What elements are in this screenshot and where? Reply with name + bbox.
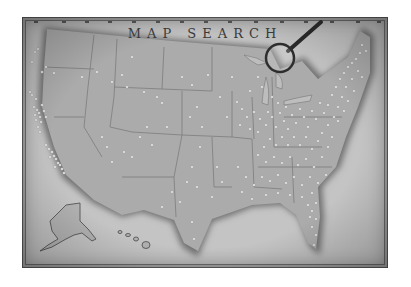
map-title: MAP SEARCH: [122, 26, 288, 41]
vignette: [22, 17, 388, 268]
map-frame: MAP SEARCH: [22, 17, 388, 268]
us-map[interactable]: [22, 17, 388, 268]
